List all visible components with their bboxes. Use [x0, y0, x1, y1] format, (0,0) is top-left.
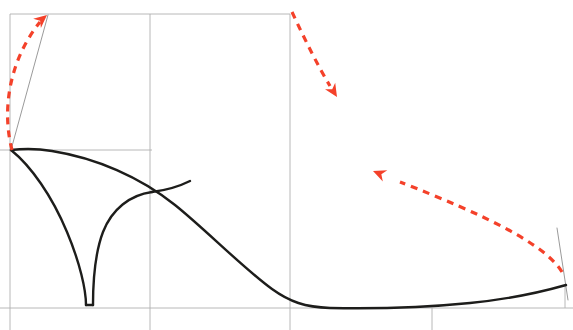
- drawing-canvas: [0, 0, 573, 330]
- shoe-profile-drawing: [0, 0, 573, 330]
- canvas-background: [0, 0, 573, 330]
